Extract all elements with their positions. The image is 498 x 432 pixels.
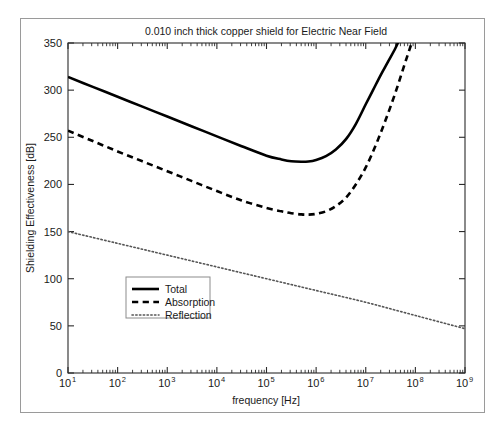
figure-root: 0.010 inch thick copper shield for Elect… xyxy=(0,0,498,432)
x-axis-label: frequency [Hz] xyxy=(232,394,300,406)
chart-title: 0.010 inch thick copper shield for Elect… xyxy=(145,25,387,37)
y-axis-tick-labels: 050100150200250300350 xyxy=(44,37,62,379)
chart-canvas: 0.010 inch thick copper shield for Elect… xyxy=(0,0,498,432)
svg-text:10: 10 xyxy=(258,377,270,389)
svg-text:9: 9 xyxy=(469,375,473,384)
x-tick-label: 105 xyxy=(258,375,275,389)
svg-text:5: 5 xyxy=(271,375,275,384)
y-tick-label: 300 xyxy=(44,84,62,96)
y-axis-label: Shielding Effectiveness [dB] xyxy=(24,143,36,273)
legend-label-absorption: Absorption xyxy=(165,296,215,308)
svg-text:10: 10 xyxy=(208,377,220,389)
svg-text:10: 10 xyxy=(456,377,468,389)
svg-text:6: 6 xyxy=(320,375,324,384)
svg-text:3: 3 xyxy=(171,375,175,384)
x-tick-label: 102 xyxy=(109,375,126,389)
y-tick-label: 200 xyxy=(44,178,62,190)
y-tick-label: 50 xyxy=(50,320,62,332)
y-tick-label: 0 xyxy=(56,367,62,379)
svg-text:10: 10 xyxy=(158,377,170,389)
x-tick-label: 103 xyxy=(158,375,175,389)
x-tick-label: 106 xyxy=(307,375,324,389)
y-tick-label: 250 xyxy=(44,131,62,143)
svg-text:10: 10 xyxy=(357,377,369,389)
legend-label-reflection: Reflection xyxy=(165,309,212,321)
svg-text:10: 10 xyxy=(109,377,121,389)
x-tick-label: 107 xyxy=(357,375,374,389)
svg-text:2: 2 xyxy=(122,375,126,384)
y-tick-label: 150 xyxy=(44,226,62,238)
legend-label-total: Total xyxy=(165,283,187,295)
svg-text:10: 10 xyxy=(406,377,418,389)
svg-text:10: 10 xyxy=(307,377,319,389)
x-tick-label: 104 xyxy=(208,375,225,389)
x-tick-label: 109 xyxy=(456,375,473,389)
x-axis-tick-labels: 101102103104105106107108109 xyxy=(59,375,473,389)
x-tick-label: 108 xyxy=(406,375,423,389)
svg-text:8: 8 xyxy=(419,375,423,384)
y-tick-label: 350 xyxy=(44,37,62,49)
svg-text:4: 4 xyxy=(221,375,225,384)
svg-text:7: 7 xyxy=(370,375,374,384)
plot-area-background xyxy=(68,43,465,373)
svg-text:1: 1 xyxy=(72,375,76,384)
y-tick-label: 100 xyxy=(44,273,62,285)
chart-legend[interactable]: TotalAbsorptionReflection xyxy=(126,277,215,321)
